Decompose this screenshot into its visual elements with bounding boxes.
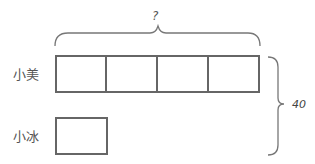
unit-box xyxy=(55,55,107,93)
unit-box xyxy=(158,55,209,93)
row-label-xiaomei: 小美 xyxy=(13,64,39,83)
row-label-xiaobing: 小冰 xyxy=(13,126,39,145)
unit-box xyxy=(209,55,260,93)
unit-box xyxy=(55,117,108,155)
right-brace xyxy=(268,57,284,155)
bar-xiaomei xyxy=(55,55,260,93)
total-label: 40 xyxy=(292,98,306,111)
bar-xiaobing xyxy=(55,117,108,155)
unit-box xyxy=(107,55,158,93)
top-brace xyxy=(55,26,260,46)
unknown-label: ? xyxy=(152,9,158,23)
